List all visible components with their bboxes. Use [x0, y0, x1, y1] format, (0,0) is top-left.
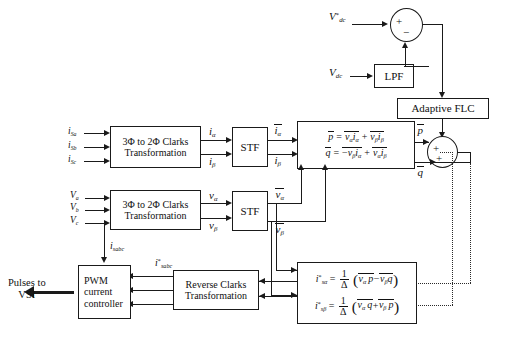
line-sum-out-right	[422, 24, 443, 25]
block-lpf[interactable]: LPF	[374, 64, 414, 88]
label-pulses-to-vsi: Pulses to VSI	[8, 277, 46, 301]
line-vb	[85, 210, 105, 211]
fraction-denominator-beta: Δ	[338, 307, 348, 317]
pulses-line2: VSI	[8, 289, 46, 301]
line-vdcref-to-sum	[352, 24, 383, 25]
block-clarke-voltage[interactable]: 3Φ to 2Φ Clarks Transformation	[110, 190, 201, 230]
label-i-sabc-reference: i*sabc	[155, 257, 172, 269]
arrow-vdc-to-lpf	[367, 73, 373, 79]
clarke-current-line2: Transformation	[125, 147, 187, 158]
equation-q: q = −vβiα + vαiβ	[325, 147, 387, 159]
line-sum-power-out	[457, 152, 471, 153]
label-p-bar: p	[417, 124, 424, 137]
line-valpha	[201, 203, 227, 204]
line-revclarke-pwm-3	[127, 304, 173, 305]
fraction-numerator-beta: 1	[339, 296, 348, 307]
arrow-irefbeta-to-revclarke	[259, 293, 265, 299]
label-i-sabc: isabc	[110, 240, 124, 252]
arrow-isabc-to-pwm	[101, 257, 107, 263]
pulses-line1: Pulses to	[8, 277, 46, 289]
label-i-alpha-bar: iα	[274, 124, 282, 137]
arrow-irefalpha-to-revclarke	[259, 278, 265, 284]
label-input-isb: iSb	[68, 140, 77, 151]
label-v-alpha: vα	[209, 189, 217, 202]
label-input-vb: Vb	[70, 202, 79, 213]
dotted-rail-p-top	[440, 152, 453, 153]
label-vdc-measured: Vdc	[329, 66, 342, 79]
line-vbeta-bar-down	[271, 221, 272, 296]
line-revclarke-pwm-1	[127, 276, 173, 277]
sum-dc-plus-sign: +	[396, 15, 402, 27]
equation-iref-beta: i*sβ = 1 Δ (vα q+vβ p)	[315, 296, 399, 317]
line-isb	[84, 147, 105, 148]
pwm-line2: current	[84, 286, 112, 297]
label-vdc-reference: V*dc	[329, 10, 346, 23]
label-v-alpha-bar: vα	[275, 188, 284, 201]
equation-p: p = vαiα + vβiβ	[328, 131, 384, 143]
arrow-pbar-to-sum	[423, 139, 429, 145]
arrow-lpf-to-sum	[402, 42, 408, 48]
line-va	[85, 198, 105, 199]
line-isabc-feedback	[104, 224, 105, 258]
reverse-clarke-line2: Transformation	[185, 290, 247, 301]
clarke-voltage-line1: 3Φ to 2Φ Clarks	[122, 199, 188, 210]
line-lpf-out	[413, 66, 429, 67]
line-qbar	[415, 162, 471, 163]
label-i-alpha: iα	[209, 125, 216, 138]
fraction-one-over-delta-beta: 1 Δ	[338, 296, 348, 317]
line-lpf-corner	[404, 66, 414, 67]
label-q-bar: q	[417, 166, 424, 179]
block-pwm-controller[interactable]: PWM current controller	[78, 265, 131, 319]
block-adaptive-flc[interactable]: Adaptive FLC	[397, 98, 489, 119]
line-isa	[84, 133, 105, 134]
line-vc	[85, 223, 105, 224]
line-vbeta-bar-up	[325, 169, 326, 222]
line-ialpha-bar	[268, 140, 293, 141]
dotted-rail-p-bottom	[415, 305, 453, 306]
line-valpha-bar-down	[276, 203, 277, 271]
dotted-rail-q-vertical	[470, 163, 471, 283]
equation-iref-alpha: i*sα = 1 Δ (vα p−vβq)	[316, 269, 398, 290]
arrow-qbar	[430, 159, 436, 165]
label-i-beta-bar: iβ	[274, 154, 281, 167]
block-diagram-canvas: V*dc + − Vdc LPF Adaptive FLC + + iSa iS…	[0, 0, 510, 350]
block-iref-equations[interactable]: i*sα = 1 Δ (vα p−vβq) i*sβ = 1 Δ (vα q+v…	[297, 262, 417, 324]
label-input-va: Va	[70, 190, 79, 201]
label-v-beta: vβ	[209, 219, 217, 232]
pwm-line3: controller	[84, 298, 123, 309]
line-revclarke-pwm-2	[127, 290, 173, 291]
dotted-rail-q-bottom	[415, 283, 471, 284]
line-isc	[84, 161, 105, 162]
line-ialpha	[201, 140, 227, 141]
arrow-vdcref-to-sum	[382, 21, 388, 27]
line-valpha-bar-up	[301, 169, 302, 204]
block-pq-equations[interactable]: p = vαiα + vβiβ q = −vβiα + vαiβ	[297, 121, 415, 169]
arrow-vbeta-bar-to-pq	[322, 164, 328, 170]
line-valpha-bar	[268, 203, 302, 204]
sum-dc-minus-sign: −	[403, 26, 409, 38]
fraction-one-over-delta-alpha: 1 Δ	[339, 269, 349, 290]
line-ibeta	[201, 154, 227, 155]
line-sum-out-down	[442, 24, 443, 94]
block-clarke-current[interactable]: 3Φ to 2Φ Clarks Transformation	[110, 126, 201, 168]
block-stf-voltage[interactable]: STF	[232, 191, 268, 231]
label-input-vc: Vc	[70, 215, 78, 226]
line-lpf-up	[405, 48, 406, 67]
reverse-clarke-line1: Reverse Clarks	[186, 279, 247, 290]
fraction-denominator-alpha: Δ	[339, 280, 349, 290]
block-stf-current[interactable]: STF	[232, 127, 268, 167]
label-input-isa: iSa	[68, 126, 77, 137]
block-reverse-clarke[interactable]: Reverse Clarks Transformation	[173, 270, 259, 310]
pwm-line1: PWM	[84, 275, 108, 286]
line-ibeta-bar	[268, 154, 293, 155]
clarke-voltage-line2: Transformation	[125, 210, 187, 221]
line-vdc-to-lpf	[350, 76, 368, 77]
label-input-isc: iSc	[68, 154, 76, 165]
line-vbeta	[201, 218, 227, 219]
clarke-current-line1: 3Φ to 2Φ Clarks	[122, 136, 188, 147]
label-i-beta: iβ	[209, 155, 215, 168]
arrow-valpha-bar-to-pq	[298, 164, 304, 170]
